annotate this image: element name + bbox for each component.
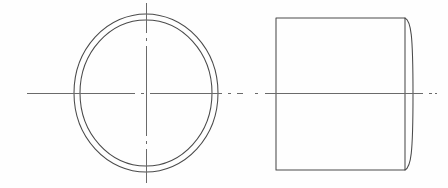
- technical-drawing-canvas: Orthographic drawing of a cylindrical tu…: [0, 0, 448, 188]
- front-view-centerlines: [27, 3, 243, 185]
- drawing-surface: [0, 0, 448, 188]
